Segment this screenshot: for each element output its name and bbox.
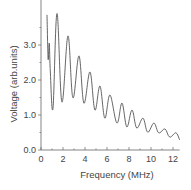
y-axis-label: Voltage (arb.units): [8, 45, 19, 122]
x-axis: 024681012: [38, 147, 179, 164]
y-tick-label: 0.0: [23, 145, 36, 155]
y-tick-label: 1.0: [23, 110, 36, 120]
x-tick-label: 4: [82, 154, 87, 164]
y-tick-label: 2.0: [23, 75, 36, 85]
x-tick-label: 2: [60, 154, 65, 164]
y-axis: 0.01.02.03.0: [23, 0, 41, 155]
data-line: [47, 13, 180, 139]
x-tick-label: 6: [104, 154, 109, 164]
x-tick-label: 8: [126, 154, 131, 164]
x-tick-label: 10: [146, 154, 156, 164]
x-axis-label: Frequency (MHz): [80, 169, 153, 180]
x-tick-label: 12: [168, 154, 178, 164]
chart: 0.01.02.03.0 024681012 Frequency (MHz) V…: [0, 0, 191, 190]
x-tick-label: 0: [38, 154, 43, 164]
y-tick-label: 3.0: [23, 40, 36, 50]
